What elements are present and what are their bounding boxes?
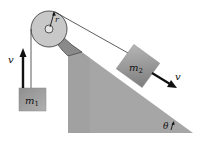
pulley-axle [45, 25, 53, 33]
pulley-incline-diagram: r m1 v m2 v θ [0, 0, 202, 142]
angle-label: θ [163, 121, 169, 131]
incline-shade [68, 42, 90, 133]
velocity-label-m1: v [8, 54, 14, 65]
velocity-label-m2: v [175, 71, 181, 82]
velocity-arrow-m2 [152, 73, 170, 84]
velocity-arrowhead-m1-icon [20, 48, 27, 57]
